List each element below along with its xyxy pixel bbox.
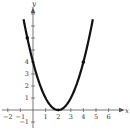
parabola-curve [24, 19, 93, 110]
chart-canvas: −2−1123456−11234 x y [0, 0, 130, 130]
x-tick-label: 5 [94, 113, 98, 121]
x-tick-label: 4 [81, 113, 85, 121]
y-tick-label: 3 [25, 70, 29, 78]
y-tick-label: 1 [25, 94, 29, 102]
y-axis-label: y [31, 0, 37, 8]
point-marker [82, 60, 86, 64]
x-tick-label: 3 [69, 113, 73, 121]
x-tick-label: −2 [3, 113, 13, 121]
tick-labels: −2−1123456−11234 [3, 58, 111, 126]
ticks [8, 14, 109, 122]
y-tick-label: −1 [19, 118, 29, 126]
x-tick-label: 2 [56, 113, 60, 121]
y-tick-label: 2 [25, 82, 29, 90]
x-tick-label: 6 [107, 113, 111, 121]
x-axis-label: x [125, 107, 129, 115]
x-tick-label: 1 [44, 113, 48, 121]
y-tick-label: 4 [25, 58, 29, 66]
point-marker [26, 36, 30, 40]
parabola-chart: −2−1123456−11234 x y [0, 0, 130, 130]
